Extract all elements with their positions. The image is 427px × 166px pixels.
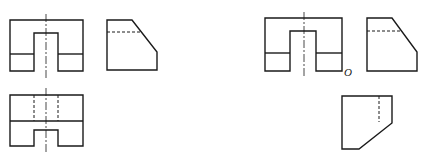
right-side-view xyxy=(367,18,417,71)
drawing-canvas: O xyxy=(0,0,427,166)
right-bottom-view xyxy=(342,96,392,149)
right-front-view: O xyxy=(265,12,352,78)
left-top-view xyxy=(10,88,83,152)
left-front-view xyxy=(10,14,83,80)
left-side-view xyxy=(107,20,157,70)
origin-label: O xyxy=(344,66,352,78)
